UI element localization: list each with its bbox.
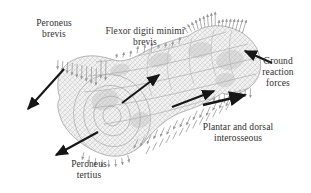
label-plantar-and-dorsal-interosseous: Plantar and dorsal interosseous (192, 122, 284, 144)
label-peroneus-tertius: Peroneus tertius (58, 159, 120, 181)
label-flexor-digiti-minimi-brevis: Flexor digiti minimi brevis (103, 26, 187, 48)
label-peroneus-brevis: Peroneus brevis (24, 18, 84, 40)
bone-force-diagram: Peroneus brevis Flexor digiti minimi bre… (0, 0, 311, 193)
label-ground-reaction-forces: Ground reaction forces (250, 56, 306, 90)
